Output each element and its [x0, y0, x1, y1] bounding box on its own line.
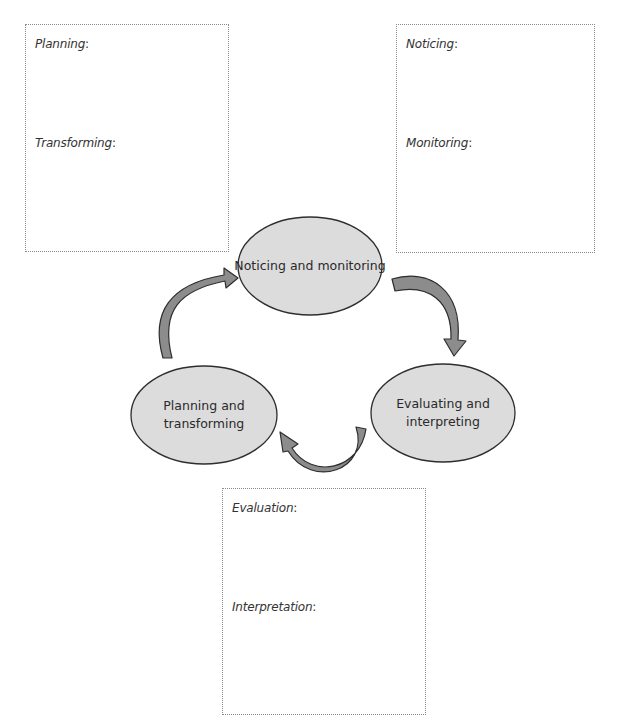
arrow-evaluating-to-planning [280, 427, 366, 472]
cycle-diagram: Noticing and monitoring Evaluating and i… [0, 0, 623, 727]
arrow-noticing-to-evaluating [392, 276, 466, 356]
node-noticing-and-monitoring: Noticing and monitoring [234, 217, 385, 315]
arrow-planning-to-noticing [159, 268, 238, 358]
node-planning-and-transforming: Planning and transforming [131, 366, 277, 464]
node-label-line-2: interpreting [406, 414, 480, 429]
node-label-line-2: transforming [164, 416, 245, 431]
node-label-line-1: Planning and [163, 398, 244, 413]
node-label: Noticing and monitoring [234, 258, 385, 273]
node-label-line-1: Evaluating and [396, 396, 490, 411]
node-evaluating-and-interpreting: Evaluating and interpreting [371, 364, 515, 462]
